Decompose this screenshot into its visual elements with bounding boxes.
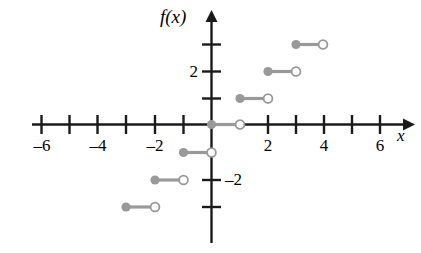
- step-function-figure: f(x) x –6 –4 –2 2 4 6 2 –2: [0, 0, 421, 253]
- x-axis-label: x: [397, 126, 405, 146]
- x-tick-label-neg2: –2: [142, 136, 168, 156]
- x-tick-label-pos4: 4: [314, 136, 334, 156]
- x-tick-label-neg6: –6: [29, 136, 55, 156]
- step-segment: [207, 120, 245, 129]
- step-segment: [150, 175, 188, 184]
- y-axis-label: f(x): [160, 6, 186, 28]
- step-segment: [179, 148, 216, 157]
- x-tick-label-neg4: –4: [85, 136, 111, 156]
- step-segment: [121, 202, 159, 211]
- step-function-plot: [0, 0, 421, 253]
- step-segment: [235, 94, 272, 103]
- step-segment: [263, 67, 300, 76]
- step-segment: [291, 40, 327, 49]
- x-tick-label-pos2: 2: [258, 136, 278, 156]
- x-tick-label-pos6: 6: [370, 136, 390, 156]
- y-tick-label-neg2: –2: [225, 170, 251, 190]
- y-tick-label-pos2: 2: [180, 62, 198, 82]
